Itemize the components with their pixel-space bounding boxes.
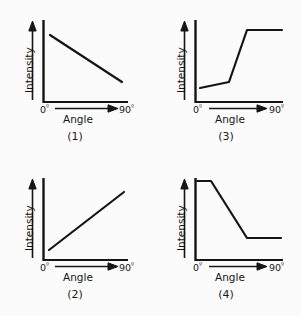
chart-panel-2: Intensity 0º 90º Angle (2) bbox=[0, 158, 150, 316]
chart-2-data-line bbox=[49, 192, 124, 250]
chart-2-x-axis-label: Angle bbox=[63, 271, 93, 283]
chart-panel-1: Intensity 0º 90º Angle (1) bbox=[0, 0, 150, 158]
angle-arrow-icon-3 bbox=[209, 105, 267, 112]
chart-2-y-axis-label: Intensity bbox=[23, 205, 35, 251]
chart-1-y-axis-label: Intensity bbox=[23, 47, 35, 93]
chart-2-xtick-end: 90º bbox=[119, 262, 134, 273]
chart-2-xtick-start: 0º bbox=[40, 262, 49, 273]
chart-1-xtick-end: 90º bbox=[119, 104, 134, 115]
chart-1-caption: (1) bbox=[0, 130, 150, 143]
angle-arrow-icon-2 bbox=[55, 263, 118, 270]
chart-1-x-axis-label: Angle bbox=[63, 113, 93, 125]
chart-4-xtick-start: 0º bbox=[193, 262, 202, 273]
chart-3-xtick-start: 0º bbox=[193, 104, 202, 115]
chart-4-data-line bbox=[197, 181, 281, 238]
chart-4-caption: (4) bbox=[151, 288, 301, 301]
chart-3-caption: (3) bbox=[151, 130, 301, 143]
chart-3-xtick-end: 90º bbox=[269, 104, 284, 115]
chart-3-y-axis-label: Intensity bbox=[175, 47, 187, 93]
chart-4-x-axis-label: Angle bbox=[215, 271, 245, 283]
chart-panel-4: Intensity 0º 90º Angle (4) bbox=[151, 158, 301, 316]
angle-arrow-icon-4 bbox=[209, 263, 267, 270]
chart-2-caption: (2) bbox=[0, 288, 150, 301]
figure-canvas: Intensity 0º 90º Angle (1) Intensity 0º … bbox=[0, 0, 301, 316]
chart-3-x-axis-label: Angle bbox=[215, 113, 245, 125]
chart-3-data-line bbox=[200, 30, 282, 88]
chart-panel-3: Intensity 0º 90º Angle (3) bbox=[151, 0, 301, 158]
chart-1-xtick-start: 0º bbox=[40, 104, 49, 115]
chart-4-xtick-end: 90º bbox=[269, 262, 284, 273]
chart-4-y-axis-label: Intensity bbox=[175, 205, 187, 251]
angle-arrow-icon-1 bbox=[55, 105, 118, 112]
chart-1-data-line bbox=[50, 35, 122, 82]
